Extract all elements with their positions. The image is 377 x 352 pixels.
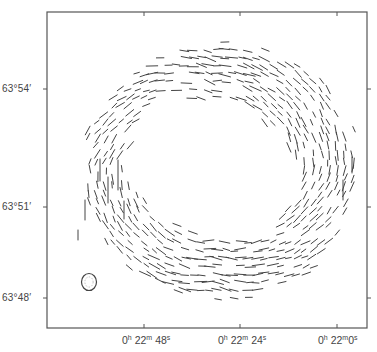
x-tick-label-22m48s: 0h 22m 48s bbox=[122, 334, 170, 346]
axis-ticks bbox=[43, 12, 371, 328]
beam-ellipse-icon bbox=[82, 274, 97, 291]
plot-frame bbox=[47, 12, 367, 328]
polarization-vectors bbox=[78, 42, 355, 300]
y-tick-label-63-54: 63°54′ bbox=[2, 83, 31, 94]
x-tick-label-22m0s: 0h 22m0s bbox=[318, 334, 358, 346]
y-tick-label-63-51: 63°51′ bbox=[2, 201, 31, 212]
plot-area bbox=[0, 0, 377, 352]
polarization-map-figure: 63°54′ 63°51′ 63°48′ 0h 22m 48s 0h 22m 2… bbox=[0, 0, 377, 352]
y-tick-label-63-48: 63°48′ bbox=[2, 292, 31, 303]
x-tick-label-22m24s: 0h 22m 24s bbox=[218, 334, 266, 346]
